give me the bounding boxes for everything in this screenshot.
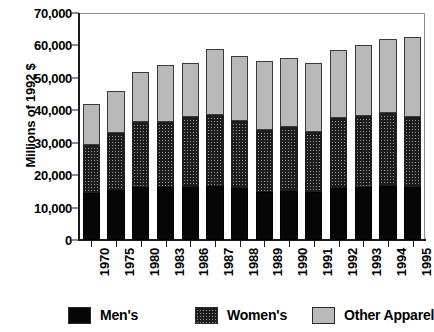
legend-item[interactable]: Women's xyxy=(195,304,287,326)
bar-group[interactable] xyxy=(182,13,199,240)
x-axis-tick-mark xyxy=(141,241,142,247)
bars-layer xyxy=(79,13,425,240)
bar-segment[interactable] xyxy=(379,39,396,113)
bar-group[interactable] xyxy=(231,13,248,240)
bar-segment[interactable] xyxy=(157,122,174,188)
bar-segment[interactable] xyxy=(404,37,421,116)
x-axis-tick-mark xyxy=(363,241,364,247)
y-axis-tick-label: 30,000 xyxy=(0,135,72,150)
bar-segment[interactable] xyxy=(404,187,421,240)
legend-item[interactable]: Other Apparel xyxy=(312,304,434,326)
bar-segment[interactable] xyxy=(330,188,347,240)
bar-segment[interactable] xyxy=(305,132,322,192)
x-axis-tick-label: 1980 xyxy=(147,248,162,276)
bar-segment[interactable] xyxy=(355,45,372,116)
bar-segment[interactable] xyxy=(305,192,322,240)
bar-segment[interactable] xyxy=(379,186,396,240)
bar-segment[interactable] xyxy=(107,133,124,190)
x-axis-tick-label: 1975 xyxy=(122,248,137,276)
bar-segment[interactable] xyxy=(182,117,199,187)
bar-segment[interactable] xyxy=(107,190,124,240)
x-axis-tick-mark xyxy=(339,241,340,247)
bar-segment[interactable] xyxy=(182,63,199,117)
x-axis-tick-label: 1986 xyxy=(196,248,211,276)
bar-group[interactable] xyxy=(157,13,174,240)
x-axis-tick-label: 1990 xyxy=(295,248,310,276)
bar-segment[interactable] xyxy=(280,127,297,192)
bar-group[interactable] xyxy=(206,13,223,240)
bar-segment[interactable] xyxy=(206,186,223,240)
y-axis-tick-mark xyxy=(72,110,79,111)
bar-segment[interactable] xyxy=(330,50,347,118)
bar-group[interactable] xyxy=(256,13,273,240)
bar-segment[interactable] xyxy=(157,65,174,122)
y-axis-tick-label: 10,000 xyxy=(0,200,72,215)
bar-segment[interactable] xyxy=(379,113,396,186)
x-axis-tick-label: 1995 xyxy=(419,248,434,276)
bar-group[interactable] xyxy=(132,13,149,240)
y-axis-tick-mark xyxy=(72,77,79,78)
bar-segment[interactable] xyxy=(107,91,124,133)
y-axis-tick-mark xyxy=(72,175,79,176)
x-axis-tick-label: 1994 xyxy=(394,248,409,276)
bar-segment[interactable] xyxy=(231,121,248,188)
chart-legend: Men'sWomen'sOther Apparel xyxy=(0,300,430,332)
x-axis-tick-label: 1983 xyxy=(172,248,187,276)
bar-segment[interactable] xyxy=(280,191,297,240)
y-axis-tick-label: 20,000 xyxy=(0,168,72,183)
y-axis-tick-label: 60,000 xyxy=(0,38,72,53)
bar-group[interactable] xyxy=(355,13,372,240)
bar-group[interactable] xyxy=(330,13,347,240)
bar-group[interactable] xyxy=(305,13,322,240)
bar-group[interactable] xyxy=(404,13,421,240)
bar-segment[interactable] xyxy=(132,72,149,122)
bar-segment[interactable] xyxy=(305,63,322,132)
x-axis-tick-mark xyxy=(91,241,92,247)
legend-item[interactable]: Men's xyxy=(68,304,138,326)
bar-segment[interactable] xyxy=(256,61,273,130)
legend-swatch xyxy=(312,307,335,324)
x-axis-tick-mark xyxy=(314,241,315,247)
x-axis-tick-mark xyxy=(264,241,265,247)
bar-segment[interactable] xyxy=(330,118,347,188)
bar-segment[interactable] xyxy=(355,116,372,187)
legend-label: Men's xyxy=(100,307,138,323)
x-axis-tick-label: 1991 xyxy=(320,248,335,276)
bar-segment[interactable] xyxy=(256,192,273,240)
x-axis-tick-labels: 1970197519801983198619871988198919901991… xyxy=(79,248,425,300)
bar-segment[interactable] xyxy=(280,58,297,126)
bar-segment[interactable] xyxy=(206,49,223,115)
legend-label: Women's xyxy=(227,307,287,323)
bar-segment[interactable] xyxy=(132,122,149,187)
legend-label: Other Apparel xyxy=(344,307,434,323)
bar-segment[interactable] xyxy=(157,187,174,240)
x-axis-tick-mark xyxy=(289,241,290,247)
bar-segment[interactable] xyxy=(83,145,100,193)
bar-segment[interactable] xyxy=(182,187,199,240)
x-axis-tick-mark xyxy=(215,241,216,247)
legend-swatch xyxy=(195,307,218,324)
x-axis-tick-mark xyxy=(116,241,117,247)
bar-segment[interactable] xyxy=(256,130,273,192)
x-axis-tick-label: 1993 xyxy=(369,248,384,276)
x-axis-tick-mark xyxy=(166,241,167,247)
bar-segment[interactable] xyxy=(355,187,372,240)
bar-group[interactable] xyxy=(107,13,124,240)
y-axis-tick-mark xyxy=(72,207,79,208)
bar-segment[interactable] xyxy=(231,188,248,240)
bar-segment[interactable] xyxy=(132,187,149,240)
bar-group[interactable] xyxy=(83,13,100,240)
bar-segment[interactable] xyxy=(404,117,421,188)
y-axis-tick-mark xyxy=(72,45,79,46)
bar-segment[interactable] xyxy=(231,56,248,121)
bar-group[interactable] xyxy=(280,13,297,240)
bar-segment[interactable] xyxy=(83,193,100,240)
x-axis-tick-mark xyxy=(190,241,191,247)
bar-group[interactable] xyxy=(379,13,396,240)
bar-segment[interactable] xyxy=(83,104,100,144)
x-axis-tick-mark xyxy=(240,241,241,247)
bar-segment[interactable] xyxy=(206,115,223,186)
y-axis-tick-label: 0 xyxy=(0,233,72,248)
y-axis-tick-mark xyxy=(72,13,79,14)
